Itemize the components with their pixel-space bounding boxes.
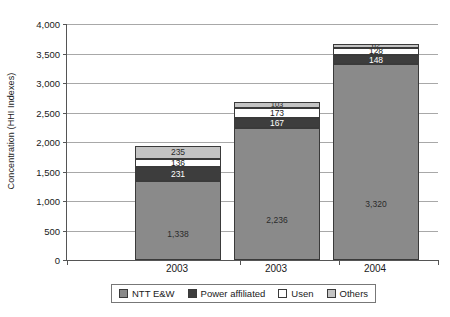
bar-segment-value-label: 3,320 [365,200,386,209]
bar-segment-value-label: 103 [271,102,284,108]
bar-segment-value-label: 235 [171,148,185,157]
bar-segment[interactable]: 1,338 [135,181,221,260]
legend-item-label: Others [340,288,369,299]
y-axis-tick-label: 3,500 [36,48,60,59]
bar-segment[interactable]: 231 [135,167,221,181]
bar-segment-value-label: 62 [372,44,380,48]
y-axis-tick-label: 1,000 [36,196,60,207]
bar-segment-value-label: 128 [369,48,383,56]
y-axis-tick-label: 2,000 [36,137,60,148]
legend-item-label: Power affiliated [201,288,266,299]
bar-segment[interactable]: 173 [234,108,320,118]
x-axis-tick-label: 2003 [226,263,326,274]
y-axis-tick-mark [63,142,67,143]
legend-swatch-icon [327,289,336,298]
bar-segment[interactable]: 136 [135,159,221,167]
bar-segment[interactable]: 2,236 [234,128,320,260]
plot-area: 1,3382311362352,2361671731033,3201481286… [66,24,438,261]
bar-segment[interactable]: 148 [333,55,419,64]
y-axis-tick-label: 500 [44,225,60,236]
bar-segment-value-label: 148 [369,56,383,65]
legend-swatch-icon [188,289,197,298]
bar-segment[interactable]: 235 [135,146,221,160]
bar-segment-value-label: 173 [270,109,284,118]
bar-segment[interactable]: 128 [333,48,419,56]
bar-segment-value-label: 136 [171,159,185,167]
bar-segment[interactable]: 3,320 [333,64,419,260]
bar-segment[interactable]: 167 [234,118,320,128]
legend-item[interactable]: Others [327,288,369,299]
y-axis-tick-mark [63,113,67,114]
y-axis-tick-label: 0 [55,255,60,266]
y-axis-tick-label: 1,500 [36,166,60,177]
x-axis-tick-label: 2004 [325,263,425,274]
bar-segment-value-label: 1,338 [167,230,188,239]
y-axis-tick-label: 3,000 [36,78,60,89]
legend-item[interactable]: Power affiliated [188,288,266,299]
y-axis-tick-label: 2,500 [36,107,60,118]
gridline [67,24,438,25]
legend-item-label: NTT E&W [132,288,175,299]
x-axis-tick-label: 2003 [127,263,227,274]
y-axis-tick-mark [63,24,67,25]
legend-item-label: Usen [291,288,313,299]
bar-segment[interactable]: 62 [333,44,419,48]
chart-legend: NTT E&WPower affiliatedUsenOthers [111,284,376,303]
y-axis-tick-mark [63,201,67,202]
y-axis-tick-mark [63,231,67,232]
bar-segment-value-label: 167 [270,119,284,128]
x-axis-tick-labels: 200320032004 [66,263,437,279]
legend-swatch-icon [278,289,287,298]
legend-swatch-icon [119,289,128,298]
stacked-bar-chart: Concentration (HHI Indexes) 05001,0001,5… [0,0,450,317]
y-axis-tick-mark [63,172,67,173]
bar-segment[interactable]: 103 [234,102,320,108]
y-axis-tick-mark [63,54,67,55]
y-axis-tick-labels: 05001,0001,5002,0002,5003,0003,5004,000 [0,24,62,260]
legend-item[interactable]: NTT E&W [119,288,175,299]
legend-item[interactable]: Usen [278,288,313,299]
y-axis-tick-label: 4,000 [36,19,60,30]
bar-segment-value-label: 2,236 [266,216,287,225]
bar-segment-value-label: 231 [171,170,185,179]
x-axis-tick-mark [438,260,439,265]
y-axis-tick-mark [63,83,67,84]
